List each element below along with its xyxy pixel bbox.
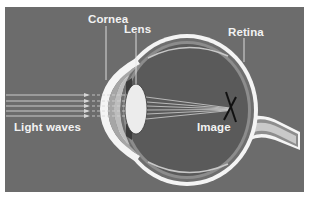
label-cornea: Cornea: [88, 13, 128, 25]
light-wave-arrowheads: [84, 93, 90, 118]
label-image: Image: [197, 121, 231, 133]
label-retina: Retina: [228, 26, 264, 38]
eye-illustration: [0, 0, 311, 199]
eye-diagram: Cornea Lens Retina Light waves Image: [0, 0, 311, 199]
label-light-waves: Light waves: [14, 121, 81, 133]
label-lens: Lens: [124, 23, 151, 35]
lens-shape: [125, 84, 147, 134]
light-waves: [6, 95, 88, 116]
